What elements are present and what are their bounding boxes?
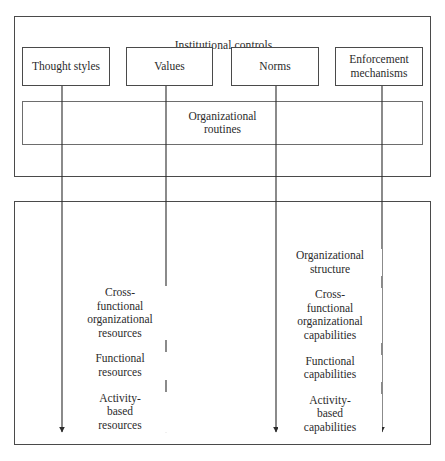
control-box-label: Norms [259,60,290,74]
institutional-controls-frame: Institutional controls [14,16,431,177]
control-box-label: Values [154,60,185,74]
control-box-enforcement-mechanisms: Enforcementmechanisms [335,47,423,86]
resources-text-column: Cross-functionalorganizationalresources … [68,286,172,432]
control-box-label: Enforcementmechanisms [349,53,408,80]
institutional-controls-diagram: Institutional controls Thought styles Va… [0,0,445,461]
control-box-norms: Norms [231,47,319,86]
text-block: Cross-functionalorganizationalresources [68,286,172,340]
text-block: Cross-functionalorganizationalcapabiliti… [278,288,382,342]
control-box-values: Values [126,47,213,86]
text-block: Activity-basedresources [68,392,172,433]
control-box-thought-styles: Thought styles [22,47,110,86]
organizational-routines-label: Organizationalroutines [182,110,262,137]
text-block: Activity-basedcapabilities [278,394,382,435]
organizational-routines-band: Organizationalroutines [22,101,423,145]
text-block: Functionalresources [68,352,172,379]
control-box-label: Thought styles [32,60,100,74]
text-block: Functionalcapabilities [278,355,382,382]
capabilities-text-column: Organizationalstructure Cross-functional… [278,249,382,435]
text-block: Organizationalstructure [278,249,382,276]
